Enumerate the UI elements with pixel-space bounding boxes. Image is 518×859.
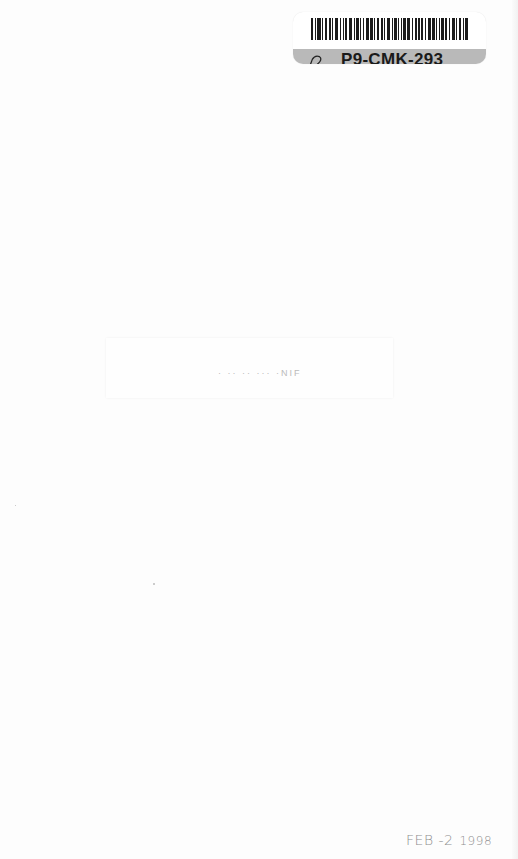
barcode [311, 18, 469, 40]
call-number: P9-CMK-293 [341, 50, 443, 64]
barcode-bar [407, 18, 410, 40]
barcode-bar [394, 18, 396, 40]
barcode-bar [463, 18, 464, 40]
date-stamp-year: 1998 [459, 834, 492, 848]
barcode-bar [403, 18, 405, 40]
barcode-bar [349, 18, 352, 40]
faded-title-text: · ·· ·· ··· ·NIF [218, 368, 301, 378]
barcode-bar [415, 18, 417, 40]
page-edge [512, 0, 518, 859]
barcode-bar [449, 18, 450, 40]
barcode-bar [366, 18, 369, 40]
barcode-bar [345, 18, 347, 40]
barcode-bar [436, 18, 437, 40]
barcode-bar [363, 18, 364, 40]
barcode-bar [354, 18, 355, 40]
barcode-bar [317, 18, 320, 40]
barcode-bar [459, 18, 461, 40]
barcode-bar [329, 18, 331, 40]
barcode-bar [332, 18, 333, 40]
barcode-bar [325, 18, 327, 40]
faded-title-plate: · ·· ·· ··· ·NIF [106, 338, 393, 398]
barcode-bar [322, 18, 323, 40]
barcode-bar [421, 18, 423, 40]
call-number-strip: P9-CMK-293 [293, 49, 486, 64]
barcode-bar [315, 18, 316, 40]
barcode-bar [401, 18, 402, 40]
barcode-bar [439, 18, 440, 40]
barcode-bar [425, 18, 426, 40]
date-stamp: FEB -21998 [406, 832, 492, 848]
barcode-bar [465, 18, 467, 40]
barcode-bar [335, 18, 338, 40]
barcode-bar [428, 18, 431, 40]
bell-icon [306, 54, 324, 64]
barcode-bar [343, 18, 344, 40]
barcode-bar [387, 18, 390, 40]
barcode-bar [340, 18, 341, 40]
barcode-bar [356, 18, 358, 40]
barcode-bar [456, 18, 457, 40]
barcode-bar [441, 18, 443, 40]
barcode-bar [381, 18, 383, 40]
barcode-bar [311, 18, 313, 40]
paper-speck [15, 505, 16, 506]
barcode-bar [445, 18, 447, 40]
barcode-bar [452, 18, 455, 40]
barcode-bar [392, 18, 393, 40]
barcode-bar [370, 18, 372, 40]
barcode-bar [418, 18, 419, 40]
paper-speck [153, 583, 155, 585]
barcode-bar [398, 18, 399, 40]
barcode-bar [432, 18, 434, 40]
barcode-bar [377, 18, 379, 40]
library-barcode-label: P9-CMK-293 [293, 12, 486, 64]
barcode-bar [412, 18, 413, 40]
barcode-bar [374, 18, 375, 40]
barcode-bar [384, 18, 385, 40]
barcode-bar [360, 18, 361, 40]
date-stamp-day: FEB -2 [406, 832, 453, 848]
